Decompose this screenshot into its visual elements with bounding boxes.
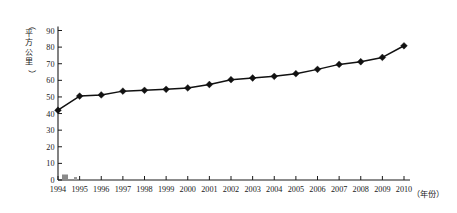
x-tick-label: 2001 (201, 185, 217, 194)
data-point-marker (98, 92, 105, 99)
y-axis-title-char: ） (27, 70, 36, 78)
x-tick-label: 1998 (136, 185, 152, 194)
data-markers (55, 42, 408, 113)
y-axis: 0102030405060708090 (46, 27, 62, 186)
y-tick-label: 70 (46, 60, 54, 69)
data-point-marker (271, 73, 278, 80)
chart-canvas: 0102030405060708090 19941995199619971998… (0, 0, 457, 213)
x-tick-label: 2004 (266, 185, 282, 194)
y-axis-title-char: 平 (25, 29, 33, 38)
x-tick-label: 1997 (115, 185, 131, 194)
y-axis-title-char: 方 (25, 37, 33, 47)
x-tick-label: 2002 (223, 185, 239, 194)
y-tick-label: 60 (46, 76, 54, 85)
data-point-marker (119, 88, 126, 95)
x-tick-label: 1999 (158, 185, 174, 194)
y-tick-label: 30 (46, 126, 54, 135)
x-tick-label: 2009 (374, 185, 390, 194)
x-tick-label: 1996 (93, 185, 109, 194)
y-tick-label: 80 (46, 43, 54, 52)
x-axis: 1994199519961997199819992000200120022003… (50, 176, 412, 194)
data-point-marker (163, 86, 170, 93)
y-axis-title: （平方公里） (25, 22, 36, 78)
x-axis-title: （年份） (412, 189, 444, 199)
x-tick-label: 2006 (309, 185, 325, 194)
data-point-marker (141, 87, 148, 94)
y-tick-label: 10 (46, 159, 54, 168)
data-point-marker (314, 66, 321, 73)
y-axis-title-char: 公 (25, 48, 33, 57)
data-point-marker (184, 85, 191, 92)
y-axis-title-char: 里 (25, 57, 33, 66)
x-tick-label: 2007 (331, 185, 347, 194)
data-point-marker (379, 54, 386, 61)
data-point-marker (292, 70, 299, 77)
y-tick-label: 20 (46, 143, 54, 152)
x-tick-label: 2003 (244, 185, 260, 194)
data-point-marker (206, 81, 213, 88)
data-point-marker (357, 58, 364, 65)
data-point-marker (336, 61, 343, 68)
x-tick-label: 2010 (396, 185, 412, 194)
x-tick-label: 2005 (288, 185, 304, 194)
x-tick-label: 2008 (353, 185, 369, 194)
data-point-marker (249, 75, 256, 82)
y-tick-label: 40 (46, 110, 54, 119)
x-tick-label: 2000 (180, 185, 196, 194)
y-tick-label: 50 (46, 93, 54, 102)
origin-artifact (62, 175, 77, 181)
x-tick-label: 1995 (71, 185, 87, 194)
y-tick-label: 90 (46, 27, 54, 36)
x-tick-label: 1994 (50, 185, 66, 194)
line-chart: 0102030405060708090 19941995199619971998… (0, 0, 457, 213)
data-point-marker (228, 76, 235, 83)
data-point-marker (401, 42, 408, 49)
